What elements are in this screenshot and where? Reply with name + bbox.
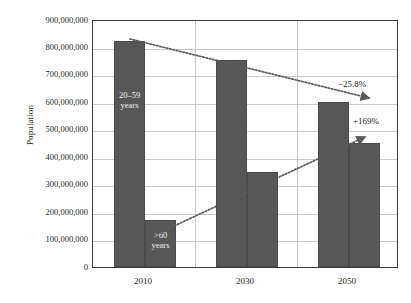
x-tick-2010: 2010	[103, 276, 183, 286]
y-axis-tick-labels: 900,000,000 800,000,000 700,000,000 600,…	[0, 0, 88, 303]
annotation-adults-change: −25.8%	[338, 79, 366, 89]
trend-line-elderly	[159, 137, 365, 233]
annotation-elderly-change: +169%	[353, 116, 379, 126]
trend-lines	[93, 21, 399, 269]
y-tick-900m: 900,000,000	[6, 16, 88, 25]
y-tick-300m: 300,000,000	[6, 180, 88, 189]
x-tick-2050: 2050	[307, 276, 387, 286]
y-tick-600m: 600,000,000	[6, 98, 88, 107]
y-tick-400m: 400,000,000	[6, 153, 88, 162]
y-tick-800m: 800,000,000	[6, 43, 88, 52]
y-tick-100m: 100,000,000	[6, 235, 88, 244]
plot-area: 20–59 years >60 years	[92, 20, 398, 268]
population-bar-chart: Population 900,000,000 800,000,000 700,0…	[0, 0, 411, 303]
y-tick-200m: 200,000,000	[6, 208, 88, 217]
y-tick-0: 0	[6, 263, 88, 272]
y-tick-500m: 500,000,000	[6, 125, 88, 134]
trend-line-adults	[130, 39, 369, 98]
y-tick-700m: 700,000,000	[6, 70, 88, 79]
x-tick-2030: 2030	[205, 276, 285, 286]
